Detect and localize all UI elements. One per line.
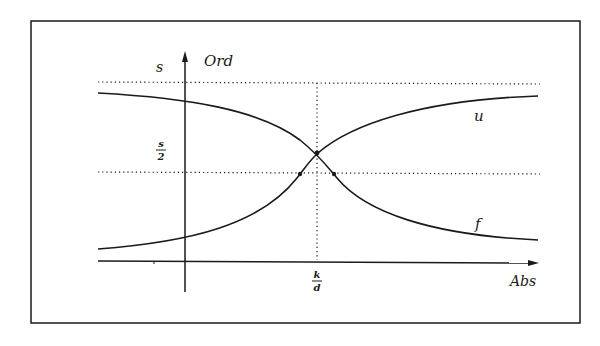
curve-f-half-point: [332, 172, 336, 176]
curve-f: [98, 93, 538, 240]
y-axis-arrow-icon: [182, 51, 188, 62]
half-label-numerator: s: [158, 138, 164, 149]
x-axis: [98, 261, 533, 263]
x-axis-arrow-icon: [528, 260, 539, 266]
x-marker-denominator: d: [314, 282, 321, 293]
diagram-canvas: Ord Abs s s 2 k d u f: [0, 0, 600, 346]
level-s-label: s: [156, 59, 163, 75]
x-marker-numerator: k: [314, 269, 321, 280]
level-half-dotted-line: [98, 172, 540, 174]
half-label-denominator: 2: [157, 151, 165, 162]
y-axis-label: Ord: [204, 52, 233, 70]
x-axis-label: Abs: [508, 273, 536, 289]
curve-u-label: u: [474, 107, 484, 125]
intersection-point: [315, 151, 320, 156]
frame-border: [31, 21, 580, 323]
curve-u-half-point: [298, 172, 302, 176]
curve-u: [98, 96, 538, 249]
level-s-dotted-line: [98, 82, 540, 84]
curve-f-label: f: [474, 215, 483, 233]
